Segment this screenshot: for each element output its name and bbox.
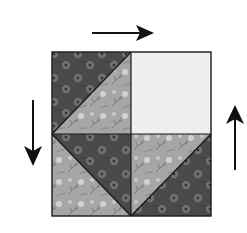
quadrant-top-right	[131, 52, 211, 134]
arrow-down-icon	[24, 100, 42, 166]
quadrant-top-left	[52, 52, 131, 134]
quadrant-bottom-left	[52, 134, 131, 216]
arrow-right-icon	[92, 25, 154, 41]
quilt-block-diagram	[0, 0, 247, 233]
quadrant-bottom-right	[131, 134, 211, 216]
arrow-up-icon	[226, 105, 244, 170]
plain-light-square	[131, 52, 211, 134]
